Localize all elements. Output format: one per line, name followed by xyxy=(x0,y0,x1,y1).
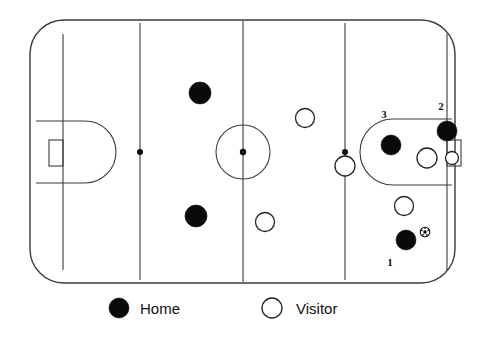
home-player-3[interactable] xyxy=(381,135,401,155)
home-player-1[interactable] xyxy=(396,230,416,250)
puck-icon xyxy=(420,227,430,237)
faceoff-dot-right-blue xyxy=(342,149,348,155)
hockey-rink-diagram: 3 2 1 Home Visitor xyxy=(0,0,488,338)
faceoff-dot-center-ice xyxy=(240,149,246,155)
legend: Home Visitor xyxy=(109,298,337,318)
visitor-player-on-blue-line[interactable] xyxy=(335,156,355,176)
legend-home-marker xyxy=(109,298,129,318)
player-label-3: 3 xyxy=(381,108,387,120)
visitor-goalie[interactable] xyxy=(446,152,459,165)
home-player-upper-neutral[interactable] xyxy=(189,82,211,104)
legend-visitor-label: Visitor xyxy=(296,300,337,317)
rink-canvas: 3 2 1 Home Visitor xyxy=(0,0,488,338)
player-label-1: 1 xyxy=(387,256,393,268)
visitor-player-lower-neutral[interactable] xyxy=(256,213,275,232)
home-player-lower-neutral[interactable] xyxy=(185,205,207,227)
visitor-player-slot[interactable] xyxy=(417,148,437,168)
faceoff-dot-left-blue xyxy=(137,149,143,155)
visitor-player-upper-right-neutral[interactable] xyxy=(296,109,315,128)
legend-home-label: Home xyxy=(140,300,180,317)
legend-visitor-marker xyxy=(262,298,282,318)
player-label-2: 2 xyxy=(438,100,444,112)
home-player-2[interactable] xyxy=(437,121,457,141)
visitor-player-point[interactable] xyxy=(395,197,414,216)
